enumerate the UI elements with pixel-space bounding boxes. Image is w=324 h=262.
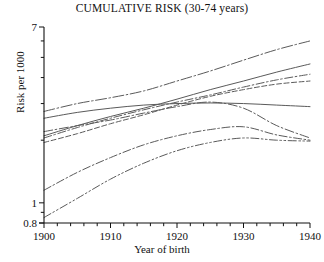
- x-tick-label: 1910: [100, 230, 123, 242]
- curve-group: [44, 41, 310, 218]
- axes-group: 710.8 19001910192019301940: [23, 21, 321, 242]
- chart-line-series-1: [44, 41, 310, 112]
- y-tick-label: 0.8: [23, 217, 37, 229]
- chart-figure: CUMULATIVE RISK (30-74 years) Risk per 1…: [0, 0, 324, 262]
- x-tick-label: 1940: [299, 230, 322, 242]
- x-tick-label: 1920: [166, 230, 189, 242]
- chart-line-series-8: [44, 138, 310, 218]
- x-tick-label: 1930: [233, 230, 256, 242]
- plot-area: 710.8 19001910192019301940: [0, 0, 324, 262]
- x-tick-labels: 19001910192019301940: [33, 230, 322, 242]
- x-tick-label: 1900: [33, 230, 56, 242]
- x-tick-group: [44, 223, 310, 228]
- chart-line-series-3: [44, 74, 310, 138]
- y-tick-group: [39, 27, 44, 223]
- chart-line-series-2: [44, 64, 310, 136]
- y-tick-label: 1: [32, 197, 38, 209]
- chart-line-series-6: [44, 102, 310, 138]
- y-tick-label: 7: [32, 21, 38, 33]
- chart-line-series-7: [44, 127, 310, 191]
- y-tick-labels: 710.8: [23, 21, 37, 229]
